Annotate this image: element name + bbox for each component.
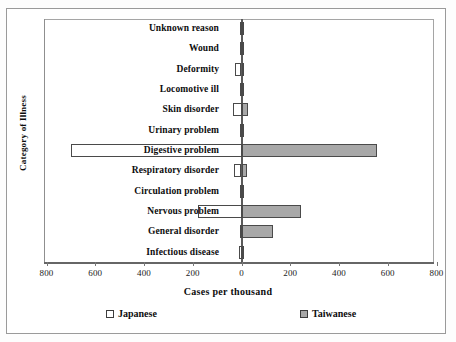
category-label: General disorder (148, 222, 219, 242)
y-axis-title: Category of Illness (18, 68, 28, 198)
category-label: Locomotive ill (160, 80, 219, 100)
bar-taiwanese (242, 83, 244, 96)
category-label: Digestive problem (144, 141, 219, 161)
x-axis-title: Cases per thousand (0, 286, 456, 297)
chart-row: Nervous problem (44, 202, 434, 222)
category-label: Nervous problem (147, 202, 219, 222)
x-axis-tick (242, 262, 243, 266)
category-label: Infectious disease (146, 243, 219, 263)
bar-taiwanese (242, 144, 377, 157)
x-axis-tick-label: 800 (27, 268, 67, 278)
bar-taiwanese (242, 103, 248, 116)
chart-row: Urinary problem (44, 121, 434, 141)
x-axis-tick-label: 200 (270, 268, 310, 278)
category-label: Skin disorder (163, 100, 219, 120)
category-label: Urinary problem (148, 121, 219, 141)
x-axis-tick (388, 262, 389, 266)
chart-screenshot: Unknown reasonWoundDeformityLocomotive i… (0, 0, 456, 342)
legend-item-japanese: Japanese (106, 308, 157, 319)
chart-row: Wound (44, 39, 434, 59)
chart-row: Digestive problem (44, 141, 434, 161)
x-axis-tick-label: 0 (222, 268, 262, 278)
x-axis-tick-label: 800 (417, 268, 456, 278)
chart-row: Circulation problem (44, 182, 434, 202)
bar-taiwanese (242, 225, 274, 238)
category-label: Circulation problem (134, 182, 219, 202)
bar-japanese (235, 63, 242, 76)
chart-row: Unknown reason (44, 19, 434, 39)
category-label: Unknown reason (149, 19, 219, 39)
bar-taiwanese (242, 63, 244, 76)
bar-taiwanese (242, 42, 244, 55)
x-axis-tick (193, 262, 194, 266)
x-axis-tick-label: 200 (173, 268, 213, 278)
x-axis-tick (47, 262, 48, 266)
chart-row: Infectious disease (44, 243, 434, 263)
bar-japanese (234, 164, 242, 177)
chart-row: Skin disorder (44, 100, 434, 120)
chart-row: Respiratory disorder (44, 161, 434, 181)
chart-row: Locomotive ill (44, 80, 434, 100)
x-axis-tick (95, 262, 96, 266)
bar-japanese (233, 103, 242, 116)
gray-square-swatch-icon (300, 310, 308, 318)
x-axis-tick (437, 262, 438, 266)
bar-taiwanese (242, 205, 302, 218)
category-label: Respiratory disorder (132, 161, 219, 181)
legend-item-taiwanese: Taiwanese (300, 308, 356, 319)
x-axis-tick (290, 262, 291, 266)
x-axis-tick (339, 262, 340, 266)
chart-row: General disorder (44, 222, 434, 242)
legend-label-japanese: Japanese (118, 308, 157, 319)
white-square-swatch-icon (106, 310, 114, 318)
chart-row: Deformity (44, 60, 434, 80)
x-axis-tick (144, 262, 145, 266)
x-axis-tick-label: 400 (319, 268, 359, 278)
bar-taiwanese (242, 185, 244, 198)
x-axis-tick-label: 600 (75, 268, 115, 278)
bar-taiwanese (242, 246, 245, 259)
bar-taiwanese (242, 22, 244, 35)
legend-label-taiwanese: Taiwanese (312, 308, 356, 319)
category-label: Wound (189, 39, 219, 59)
chart-legend: Japanese Taiwanese (6, 308, 446, 330)
bar-taiwanese (242, 124, 244, 137)
x-axis-tick-label: 600 (368, 268, 408, 278)
category-label: Deformity (176, 60, 219, 80)
bar-taiwanese (242, 164, 247, 177)
x-axis-tick-label: 400 (124, 268, 164, 278)
